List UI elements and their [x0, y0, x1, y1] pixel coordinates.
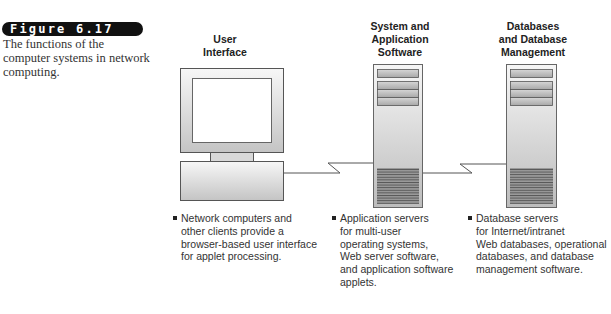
- bullet-database-management: Database servers for Internet/intranet W…: [468, 212, 611, 276]
- database-server-icon: [507, 65, 557, 208]
- bullet-application-software: Application servers for multi-user opera…: [332, 212, 462, 289]
- application-server-icon: [374, 65, 423, 208]
- bullet-square-icon: [468, 216, 472, 220]
- network-link-1: [283, 163, 373, 173]
- bullet-square-icon: [332, 216, 336, 220]
- bullet-text: Network computers and other clients prov…: [173, 212, 343, 263]
- bullet-text: Database servers for Internet/intranet W…: [468, 212, 611, 276]
- bullet-user-interface: Network computers and other clients prov…: [173, 212, 343, 263]
- computer-monitor-icon: [181, 69, 284, 201]
- network-link-2: [422, 164, 506, 173]
- bullet-text: Application servers for multi-user opera…: [332, 212, 462, 289]
- bullet-square-icon: [173, 216, 177, 220]
